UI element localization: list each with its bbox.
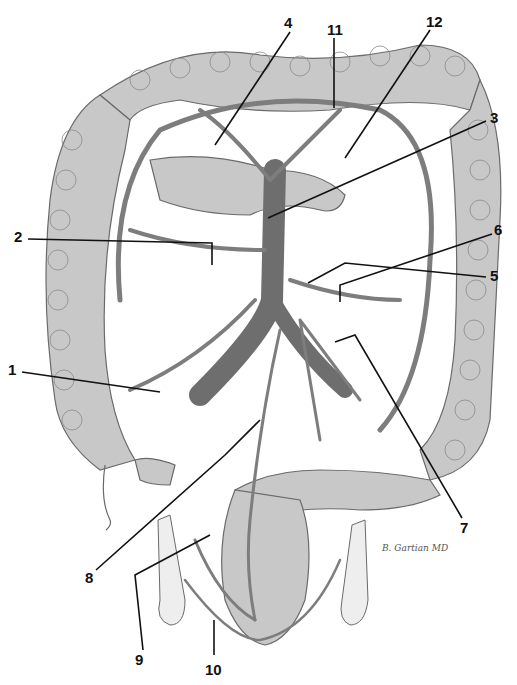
label-4: 4 (284, 15, 292, 30)
label-8: 8 (85, 570, 93, 585)
label-10: 10 (205, 662, 222, 677)
colon-blood-supply-illustration (0, 0, 517, 685)
label-11: 11 (327, 22, 343, 37)
appendix (103, 465, 110, 530)
ascending-colon (46, 95, 135, 470)
label-6: 6 (494, 222, 502, 237)
label-12: 12 (426, 14, 443, 29)
descending-colon (420, 80, 501, 480)
label-2: 2 (14, 229, 22, 244)
artist-signature: B. Gartian MD (382, 543, 448, 553)
label-9: 9 (135, 652, 143, 667)
label-3: 3 (490, 110, 498, 125)
cecum-stump (135, 458, 175, 485)
transverse-colon (100, 45, 480, 120)
label-1: 1 (8, 362, 16, 377)
pancreas-duodenum (150, 157, 345, 215)
right-colic (130, 230, 265, 250)
colon (46, 45, 501, 645)
label-5: 5 (490, 268, 498, 283)
label-7: 7 (460, 520, 468, 535)
